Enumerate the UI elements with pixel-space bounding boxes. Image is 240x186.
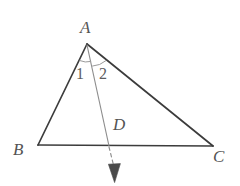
geometry-canvas [0,0,240,186]
vertex-label-A: A [80,19,90,36]
vertex-label-B: B [13,141,23,158]
angle-label-2: 2 [99,66,107,82]
vertex-label-D: D [113,116,125,133]
angle-1-arc [80,61,92,62]
vertex-label-C: C [213,148,224,165]
arrow-head-icon [108,164,120,183]
side-BC-line [38,145,213,146]
geometry-figure: A B C D 1 2 [0,0,240,186]
side-AB-line [38,44,87,145]
angle-label-1: 1 [76,66,84,82]
